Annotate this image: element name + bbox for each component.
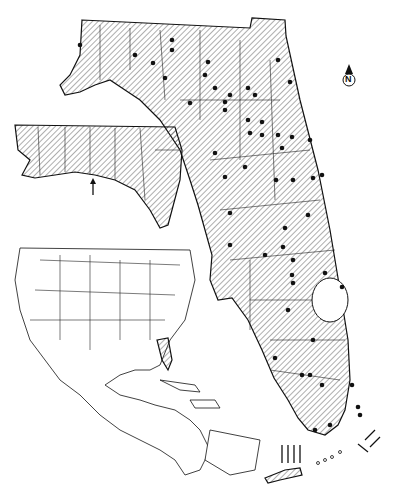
lake-okeechobee — [312, 278, 348, 322]
distribution-map — [0, 0, 396, 493]
north-label: N — [345, 74, 352, 84]
florida-keys — [265, 430, 380, 483]
arrow-icon — [370, 437, 380, 447]
arrowhead-icon — [90, 178, 96, 184]
panhandle-inset — [15, 125, 182, 228]
arrow-icon — [358, 444, 368, 452]
arrow-icon — [365, 430, 375, 440]
